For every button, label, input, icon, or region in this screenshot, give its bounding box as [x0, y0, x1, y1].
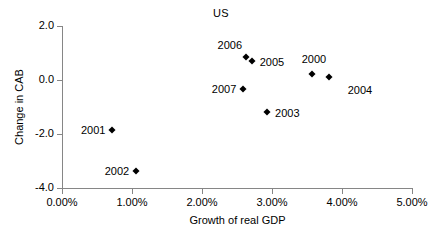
data-point-label: 2006 — [218, 40, 242, 51]
y-tick-label-text: -2.0 — [24, 128, 54, 139]
data-point-marker — [109, 126, 116, 133]
data-point-marker — [264, 109, 271, 116]
y-tick-label: 2.0 — [14, 20, 54, 31]
y-tick-label-text: 0.0 — [24, 74, 54, 85]
y-tick-label: -4.0 — [14, 182, 54, 193]
x-tick-mark — [342, 189, 343, 194]
x-tick-label: 2.00% — [172, 197, 232, 208]
scatter-chart: US 2.00.0-2.0-4.0 0.00%1.00%2.00%3.00%4.… — [0, 0, 442, 242]
data-point-label: 2000 — [302, 54, 326, 65]
data-point-label: 2007 — [212, 83, 236, 94]
y-axis-title: Change in CAB — [13, 32, 25, 182]
data-point-marker — [133, 167, 140, 174]
x-tick-label: 0.00% — [32, 197, 92, 208]
data-point-label: 2005 — [260, 57, 284, 68]
data-point-marker — [240, 85, 247, 92]
x-axis-title: Growth of real GDP — [62, 214, 413, 226]
data-point-marker — [248, 58, 255, 65]
data-point-label: 2002 — [105, 165, 129, 176]
x-tick-mark — [62, 189, 63, 194]
x-axis-line — [62, 188, 413, 189]
data-point-marker — [325, 73, 332, 80]
x-tick-mark — [202, 189, 203, 194]
y-tick-label-text: -4.0 — [24, 182, 54, 193]
x-tick-mark — [272, 189, 273, 194]
data-point-label: 2003 — [275, 108, 299, 119]
x-tick-mark — [412, 189, 413, 194]
data-point-marker — [308, 71, 315, 78]
x-tick-label: 5.00% — [382, 197, 442, 208]
data-point-label: 2004 — [348, 85, 372, 96]
data-point-label: 2001 — [81, 124, 105, 135]
chart-title: US — [0, 7, 442, 19]
x-tick-label: 1.00% — [102, 197, 162, 208]
x-tick-mark — [132, 189, 133, 194]
x-tick-label: 3.00% — [242, 197, 302, 208]
plot-area: 20002001200220032004200520062007 — [62, 26, 412, 188]
y-tick-label-text: 2.0 — [24, 20, 54, 31]
x-tick-label: 4.00% — [312, 197, 372, 208]
